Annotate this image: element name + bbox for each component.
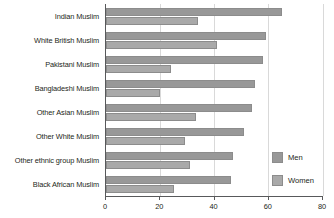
bar-group bbox=[106, 28, 322, 52]
bar-men bbox=[106, 152, 233, 160]
legend-swatch-women bbox=[272, 175, 283, 186]
category-label: Black African Muslim bbox=[0, 172, 103, 196]
bar-women bbox=[106, 65, 171, 73]
category-label: Pakistani Muslim bbox=[0, 52, 103, 76]
bar-women bbox=[106, 89, 160, 97]
legend-label: Women bbox=[288, 176, 314, 185]
bar-women bbox=[106, 161, 190, 169]
bar-women bbox=[106, 185, 174, 193]
x-tick-label: 20 bbox=[155, 202, 163, 211]
category-label: Bangladeshi Muslim bbox=[0, 76, 103, 100]
x-tick bbox=[105, 196, 106, 200]
bar-women bbox=[106, 17, 198, 25]
bar-women bbox=[106, 113, 196, 121]
legend-item-women: Women bbox=[272, 175, 332, 186]
x-tick-label: 0 bbox=[103, 202, 107, 211]
category-label: White British Muslim bbox=[0, 28, 103, 52]
legend-label: Men bbox=[288, 153, 303, 162]
category-label: Other Asian Muslim bbox=[0, 100, 103, 124]
bar-men bbox=[106, 128, 244, 136]
category-label: Other ethnic group Muslim bbox=[0, 148, 103, 172]
x-tick bbox=[214, 196, 215, 200]
x-tick bbox=[322, 196, 323, 200]
bar-group bbox=[106, 124, 322, 148]
bar-men bbox=[106, 104, 252, 112]
chart-legend: MenWomen bbox=[272, 152, 332, 186]
bar-men bbox=[106, 176, 231, 184]
legend-swatch-men bbox=[272, 152, 283, 163]
bar-men bbox=[106, 32, 266, 40]
bar-group bbox=[106, 76, 322, 100]
bar-women bbox=[106, 41, 217, 49]
bar-group bbox=[106, 4, 322, 28]
category-axis-labels: Indian MuslimWhite British MuslimPakista… bbox=[0, 4, 103, 196]
x-tick bbox=[159, 196, 160, 200]
x-tick-label: 40 bbox=[209, 202, 217, 211]
bar-men bbox=[106, 8, 282, 16]
bar-group bbox=[106, 100, 322, 124]
x-tick-label: 80 bbox=[318, 202, 326, 211]
bar-men bbox=[106, 56, 263, 64]
bar-group bbox=[106, 52, 322, 76]
category-label: Indian Muslim bbox=[0, 4, 103, 28]
bar-men bbox=[106, 80, 255, 88]
legend-item-men: Men bbox=[272, 152, 332, 163]
x-tick-label: 60 bbox=[264, 202, 272, 211]
category-label: Other White Muslim bbox=[0, 124, 103, 148]
x-tick bbox=[268, 196, 269, 200]
bar-women bbox=[106, 137, 185, 145]
bar-chart: Indian MuslimWhite British MuslimPakista… bbox=[0, 0, 334, 218]
